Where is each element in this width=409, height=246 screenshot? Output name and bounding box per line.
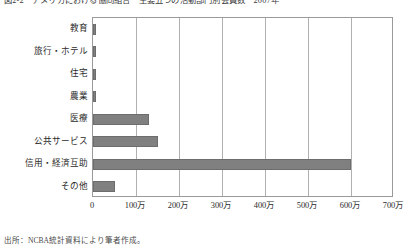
bar-row [93,69,392,80]
bar-row [93,181,392,192]
bar-row [93,91,392,102]
category-label-旅行・ホテル: 旅行・ホテル [0,46,88,56]
figure-container: 図2-2 アメリカにおける協同組合 主要五つの活動部門別会員数 2007年 教育… [0,0,409,246]
bar-row [93,24,392,35]
x-tick-label-600万: 600万 [340,200,361,212]
bar-row [93,159,392,170]
bar-教育 [93,24,96,35]
bar-医療 [93,114,149,125]
x-tick-label-200万: 200万 [168,200,189,212]
bar-row [93,46,392,57]
bar-row [93,114,392,125]
x-tick-label-400万: 400万 [254,200,275,212]
bar-row [93,136,392,147]
x-tick-label-300万: 300万 [211,200,232,212]
bar-series [93,18,392,196]
x-tick-label-0: 0 [90,200,94,212]
bar-旅行・ホテル [93,46,96,57]
x-tick-label-700万: 700万 [383,200,404,212]
category-label-農業: 農業 [0,91,88,101]
category-label-医療: 医療 [0,113,88,123]
category-label-教育: 教育 [0,23,88,33]
bar-信用・経済互助 [93,159,351,170]
category-axis-labels: 教育旅行・ホテル住宅農業医療公共サービス信用・経済互助その他 [0,17,88,197]
bar-農業 [93,91,96,102]
category-label-信用・経済互助: 信用・経済互助 [0,158,88,168]
plot-area [92,17,393,197]
category-label-住宅: 住宅 [0,68,88,78]
bar-公共サービス [93,136,158,147]
x-tick-label-500万: 500万 [297,200,318,212]
category-label-公共サービス: 公共サービス [0,136,88,146]
x-tick-label-100万: 100万 [125,200,146,212]
x-axis-labels: 0100万200万300万400万500万600万700万 [0,200,409,214]
bar-住宅 [93,69,96,80]
category-label-その他: その他 [0,181,88,191]
source-note: 出所：NCBA統計資料により筆者作成。 [4,236,405,245]
bar-その他 [93,181,115,192]
figure-title: 図2-2 アメリカにおける協同組合 主要五つの活動部門別会員数 2007年 [4,0,405,5]
